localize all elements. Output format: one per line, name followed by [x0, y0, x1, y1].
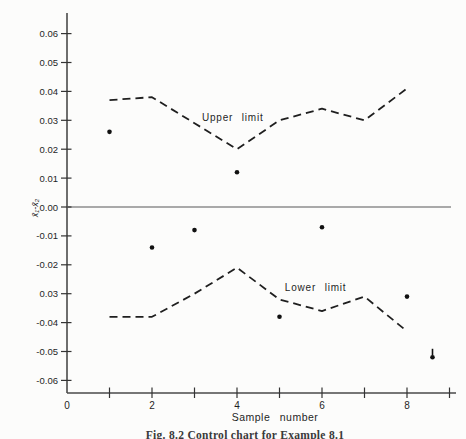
data-point — [277, 315, 282, 320]
y-tick-label: -0.02 — [36, 259, 58, 270]
x-tick-label: 6 — [319, 400, 325, 411]
x-tick-label: 2 — [149, 400, 155, 411]
y-axis-title: x̄₁-x̄₂ — [30, 198, 40, 218]
x-tick-label: 8 — [404, 400, 410, 411]
lower-limit-line — [110, 268, 408, 332]
y-tick-label: 0.06 — [40, 28, 59, 39]
x-tick-label: 0 — [64, 400, 70, 411]
figure-caption: Fig. 8.2 Control chart for Example 8.1 — [110, 429, 380, 439]
data-point — [320, 225, 325, 230]
data-point — [107, 130, 112, 135]
control-chart: 0.060.050.040.030.020.010.00-0.01-0.020.… — [0, 0, 466, 439]
x-axis-title: Sample number — [232, 411, 319, 423]
y-tick-label: -0.01 — [36, 230, 58, 241]
y-tick-label: -0.05 — [36, 346, 58, 357]
y-tick-label: -0.04 — [36, 317, 58, 328]
y-tick-label: -0.06 — [36, 375, 58, 386]
upper-limit-label: Upper limit — [202, 112, 264, 123]
y-tick-label: 0.05 — [40, 57, 59, 68]
x-tick-label: 4 — [234, 400, 240, 411]
y-tick-label: 0.03 — [40, 115, 59, 126]
figure-page: 0.060.050.040.030.020.010.00-0.01-0.020.… — [0, 0, 466, 439]
y-tick-label: 0.03 — [40, 288, 59, 299]
data-point — [405, 294, 410, 299]
y-tick-label: 0.00 — [40, 202, 59, 213]
lower-limit-label: Lower limit — [285, 282, 347, 293]
data-point — [150, 245, 155, 250]
data-point — [192, 228, 197, 233]
y-tick-label: 0.02 — [40, 144, 59, 155]
data-point — [430, 355, 435, 360]
data-point — [235, 170, 240, 175]
y-tick-label: 0.01 — [40, 173, 59, 184]
y-tick-label: 0.04 — [40, 86, 59, 97]
